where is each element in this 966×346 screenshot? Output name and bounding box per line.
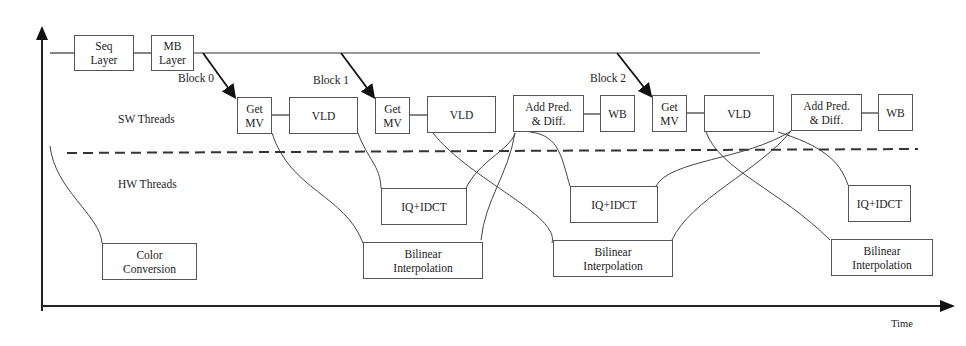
hw-threads-label: HW Threads: [118, 178, 177, 190]
add-pred-box-2: Add Pred. & Diff.: [791, 94, 862, 131]
iq-idct-box-0: IQ+IDCT: [381, 188, 467, 225]
sw-threads-label: SW Threads: [118, 113, 175, 125]
get-mv-box-0: Get MV: [237, 97, 272, 134]
iq-idct-box-2: IQ+IDCT: [848, 185, 911, 222]
seq-layer-box: Seq Layer: [74, 35, 134, 71]
vld-box-0: VLD: [289, 97, 358, 134]
block-label-0: Block 0: [178, 72, 214, 84]
block-label-1: Block 1: [313, 74, 349, 86]
vld-box-2: VLD: [704, 95, 774, 132]
add-pred-box-1: Add Pred. & Diff.: [513, 95, 584, 132]
wb-box-1: WB: [600, 95, 635, 132]
y-axis-arrow-icon: [36, 26, 48, 40]
vld-box-1: VLD: [427, 96, 496, 133]
x-axis-arrow-icon: [940, 300, 955, 312]
get-mv-box-2: Get MV: [652, 95, 687, 132]
block-label-2: Block 2: [590, 72, 626, 84]
wb-box-2: WB: [878, 94, 913, 131]
get-mv-box-1: Get MV: [375, 97, 410, 134]
mb-layer-box: MB Layer: [151, 35, 194, 71]
color-conversion-box: Color Conversion: [102, 243, 197, 280]
bilinear-interp-box-0: Bilinear Interpolation: [363, 242, 483, 279]
diagram-lines: [0, 0, 966, 346]
x-axis-label: Time: [891, 318, 913, 329]
bilinear-interp-box-2: Bilinear Interpolation: [831, 239, 933, 276]
iq-idct-box-1: IQ+IDCT: [570, 186, 658, 223]
bilinear-interp-box-1: Bilinear Interpolation: [553, 240, 673, 277]
